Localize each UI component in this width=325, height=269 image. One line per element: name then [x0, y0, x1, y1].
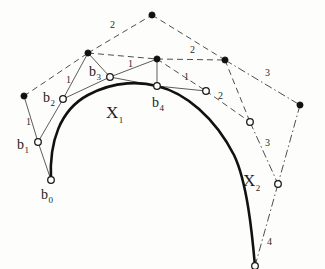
- open-point-b4: [154, 83, 161, 90]
- filled-point-p-left: [21, 93, 27, 99]
- filled-point-p-apex: [149, 12, 155, 18]
- ratio-label-n-b4-1: 1: [184, 71, 189, 82]
- ratio-label-n-mid-2: 2: [190, 44, 195, 55]
- ratio-label-n-r1-2: 2: [218, 90, 223, 101]
- ratio-label-n-upper-3: 3: [265, 67, 270, 78]
- ratio-label-n-left-1: 1: [26, 116, 31, 127]
- open-point-r1: [203, 88, 210, 95]
- open-point-b1: [35, 139, 42, 146]
- ratio-label-n-bottom-4: 4: [267, 236, 272, 247]
- open-point-b0: [48, 177, 55, 184]
- ratio-label-n-lower-3: 3: [265, 137, 270, 148]
- open-point-r2: [247, 119, 254, 126]
- open-point-r3: [275, 181, 282, 188]
- figure-background: [0, 0, 325, 269]
- ratio-label-n-b3-1: 1: [128, 58, 133, 69]
- ratio-label-n-b2-1: 1: [66, 74, 71, 85]
- open-point-r4: [252, 263, 259, 269]
- filled-point-p-upperight: [222, 57, 228, 63]
- filled-point-p-right: [297, 102, 303, 108]
- open-point-b2: [60, 96, 67, 103]
- open-point-b3: [107, 74, 114, 81]
- filled-point-p-upperleft: [85, 50, 91, 56]
- filled-point-p-mid: [154, 56, 160, 62]
- ratio-label-n-top-2: 2: [110, 19, 115, 30]
- bezier-subdivision-figure: b0b1b2b3b4X1X2 1121212334: [0, 0, 325, 269]
